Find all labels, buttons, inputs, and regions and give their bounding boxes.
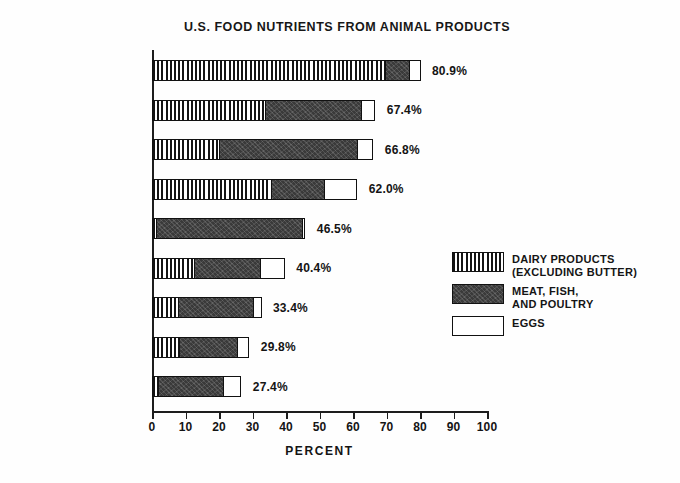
stacked-bar (152, 376, 244, 397)
bar-segment (223, 376, 241, 397)
bar-segment (357, 139, 373, 160)
bar-segment (302, 218, 305, 239)
legend-item-meat: MEAT, FISH, AND POULTRY (452, 284, 667, 310)
bar-value-label: 67.4% (387, 103, 422, 117)
legend-item-eggs: EGGS (452, 316, 667, 336)
bar-segment (260, 258, 285, 279)
bar-segment (271, 179, 325, 200)
eggs-swatch-icon (452, 316, 504, 336)
x-tick-label: 10 (179, 420, 193, 434)
bar-segment (265, 100, 362, 121)
dairy-swatch-icon (452, 252, 504, 272)
legend-label-dairy-line2: (EXCLUDING BUTTER) (512, 266, 637, 279)
bar-segment (158, 376, 225, 397)
bar-segment (194, 258, 261, 279)
x-tick-label: 0 (149, 420, 156, 434)
bar-segment (324, 179, 358, 200)
x-tick (152, 413, 154, 419)
bar-value-label: 33.4% (273, 301, 308, 315)
x-axis-title: PERCENT (152, 444, 487, 458)
bar-value-label: 40.4% (296, 261, 331, 275)
bar-value-label: 46.5% (317, 222, 352, 236)
x-tick-label: 60 (346, 420, 360, 434)
bar-segment (237, 337, 250, 358)
bar-segment (361, 100, 376, 121)
legend-label-eggs: EGGS (512, 316, 545, 330)
x-tick (320, 413, 322, 419)
chart-legend: DAIRY PRODUCTS (EXCLUDING BUTTER) MEAT, … (452, 252, 667, 342)
bar-value-label: 62.0% (369, 182, 404, 196)
x-tick (387, 413, 389, 419)
stacked-bar (152, 297, 264, 318)
stacked-bar (152, 337, 252, 358)
stacked-bar (152, 100, 378, 121)
stacked-bar (152, 179, 360, 200)
bar-segment (409, 60, 420, 81)
bar-segment (219, 139, 358, 160)
x-tick-label: 40 (279, 420, 293, 434)
bar-segment (385, 60, 410, 81)
bar-segment (152, 337, 180, 358)
bar-value-label: 27.4% (253, 380, 288, 394)
legend-label-eggs-line1: EGGS (512, 317, 545, 330)
x-tick-label: 30 (246, 420, 260, 434)
bar-segment (152, 179, 273, 200)
bar-segment (152, 100, 266, 121)
legend-label-meat-line1: MEAT, FISH, (512, 285, 594, 298)
bar-segment (152, 297, 179, 318)
bar-segment (152, 60, 387, 81)
legend-label-dairy-line1: DAIRY PRODUCTS (512, 253, 637, 266)
meat-swatch-icon (452, 284, 504, 304)
legend-label-dairy: DAIRY PRODUCTS (EXCLUDING BUTTER) (512, 252, 637, 278)
bar-value-label: 80.9% (432, 64, 467, 78)
x-tick (253, 413, 255, 419)
x-tick (186, 413, 188, 419)
x-tick-label: 80 (413, 420, 427, 434)
bar-value-label: 66.8% (385, 143, 420, 157)
stacked-bar (152, 139, 376, 160)
bar-segment (253, 297, 261, 318)
bar-segment (178, 297, 255, 318)
bar-segment (152, 139, 221, 160)
bar-value-label: 29.8% (261, 340, 296, 354)
x-tick (487, 413, 489, 419)
bar-segment (179, 337, 238, 358)
x-tick-label: 70 (380, 420, 394, 434)
stacked-bar (152, 258, 287, 279)
stacked-bar (152, 218, 308, 239)
chart-title: U.S. FOOD NUTRIENTS FROM ANIMAL PRODUCTS (0, 20, 680, 34)
x-tick-label: 100 (477, 420, 498, 434)
bar-segment (156, 218, 303, 239)
bar-segment (152, 258, 196, 279)
chart-container: U.S. FOOD NUTRIENTS FROM ANIMAL PRODUCTS… (0, 0, 680, 483)
x-tick (286, 413, 288, 419)
stacked-bar (152, 60, 423, 81)
x-tick (219, 413, 221, 419)
legend-label-meat-line2: AND POULTRY (512, 298, 594, 311)
x-tick (454, 413, 456, 419)
x-tick-label: 90 (447, 420, 461, 434)
x-tick-label: 20 (212, 420, 226, 434)
legend-item-dairy: DAIRY PRODUCTS (EXCLUDING BUTTER) (452, 252, 667, 278)
x-tick-label: 50 (313, 420, 327, 434)
legend-label-meat: MEAT, FISH, AND POULTRY (512, 284, 594, 310)
x-tick (353, 413, 355, 419)
x-tick (420, 413, 422, 419)
